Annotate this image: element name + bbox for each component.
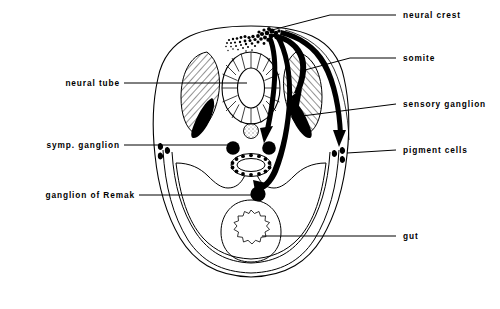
- label-pigment-cells: pigment cells: [403, 145, 468, 155]
- sympathetic-ganglion-right: [262, 141, 276, 155]
- label-somite: somite: [403, 53, 435, 63]
- diagram-canvas: neural tube symp. ganglion ganglion of R…: [0, 0, 500, 309]
- notochord: [244, 124, 259, 139]
- label-ganglion-of-remak: ganglion of Remak: [45, 190, 135, 200]
- label-neural-crest: neural crest: [403, 10, 461, 20]
- neural-crest-migration-figure: neural tube symp. ganglion ganglion of R…: [0, 0, 500, 309]
- label-neural-tube: neural tube: [65, 78, 120, 88]
- label-sensory-ganglion: sensory ganglion: [403, 99, 486, 109]
- label-gut: gut: [403, 231, 419, 241]
- dorsal-aorta: [231, 153, 272, 176]
- sympathetic-ganglion-left: [226, 141, 240, 155]
- label-symp-ganglion: symp. ganglion: [47, 140, 120, 150]
